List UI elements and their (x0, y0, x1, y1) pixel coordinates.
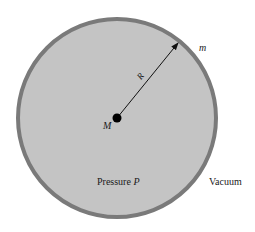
center-mass-label: M (103, 121, 111, 131)
vacuum-label: Vacuum (209, 177, 242, 187)
diagram-canvas (0, 0, 255, 232)
surface-mass-label: m (199, 43, 206, 53)
pressure-text: Pressure (97, 176, 131, 187)
pressure-symbol: P (133, 176, 139, 187)
center-mass-dot (113, 114, 122, 123)
pressure-label: Pressure P (97, 177, 140, 187)
